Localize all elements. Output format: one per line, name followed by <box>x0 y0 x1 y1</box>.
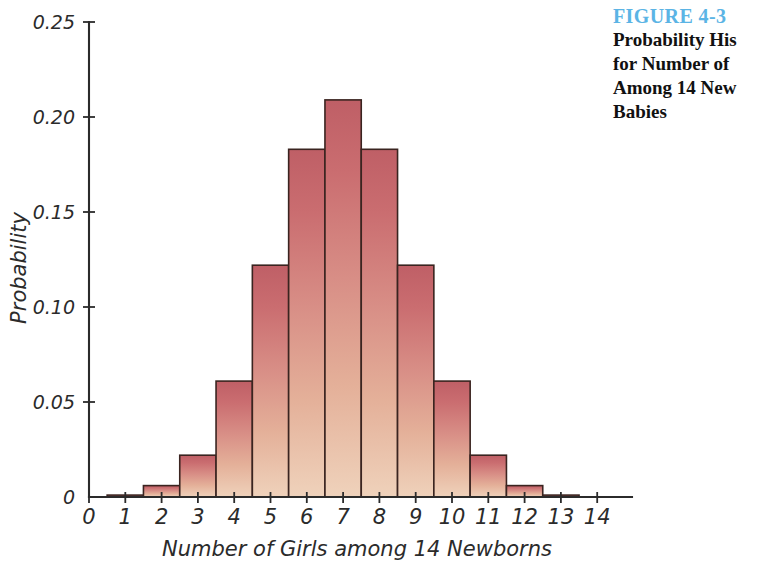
figure-number: FIGURE 4-3 <box>613 4 772 28</box>
x-tick-label: 4 <box>228 505 241 529</box>
x-tick-label: 7 <box>336 505 350 529</box>
y-axis-ticks: 00.050.100.150.200.25 <box>33 11 95 508</box>
x-tick-label: 12 <box>511 505 538 529</box>
histogram-bar <box>434 381 470 497</box>
x-tick-label: 11 <box>475 505 502 529</box>
y-tick-label: 0.10 <box>33 296 75 318</box>
histogram-bar <box>361 149 397 497</box>
histogram-bar <box>216 381 252 497</box>
x-tick-label: 14 <box>584 505 611 529</box>
histogram-bar <box>252 265 288 497</box>
histogram-bar <box>289 149 325 497</box>
y-axis-label: Probability <box>7 212 31 324</box>
probability-histogram-figure: 00.050.100.150.200.25 012345678910111213… <box>0 0 772 564</box>
x-tick-label: 6 <box>300 505 313 529</box>
bars-group <box>107 100 579 497</box>
histogram-bar <box>398 265 434 497</box>
y-tick-label: 0.05 <box>33 391 75 413</box>
figure-caption: FIGURE 4-3 Probability His for Number of… <box>613 4 772 124</box>
x-tick-label: 13 <box>548 505 575 529</box>
histogram-bar <box>470 455 506 497</box>
x-tick-label: 5 <box>264 505 277 529</box>
y-tick-label: 0.15 <box>33 201 75 223</box>
x-tick-label: 8 <box>373 505 386 529</box>
x-tick-label: 3 <box>191 505 204 529</box>
y-tick-label: 0.20 <box>33 106 75 128</box>
caption-line-1: Probability His <box>613 28 772 52</box>
x-tick-label: 1 <box>119 505 132 529</box>
y-tick-label: 0 <box>63 486 75 508</box>
caption-line-3: Among 14 New <box>613 76 772 100</box>
histogram-bar <box>325 100 361 497</box>
y-tick-label: 0.25 <box>33 11 75 33</box>
x-tick-label: 2 <box>155 505 168 529</box>
x-tick-label: 0 <box>82 505 95 529</box>
caption-line-4: Babies <box>613 100 772 124</box>
x-tick-label: 9 <box>409 505 422 529</box>
histogram-bar <box>180 455 216 497</box>
x-axis-label: Number of Girls among 14 Newborns <box>162 537 552 561</box>
x-tick-label: 10 <box>439 505 466 529</box>
caption-line-2: for Number of <box>613 52 772 76</box>
